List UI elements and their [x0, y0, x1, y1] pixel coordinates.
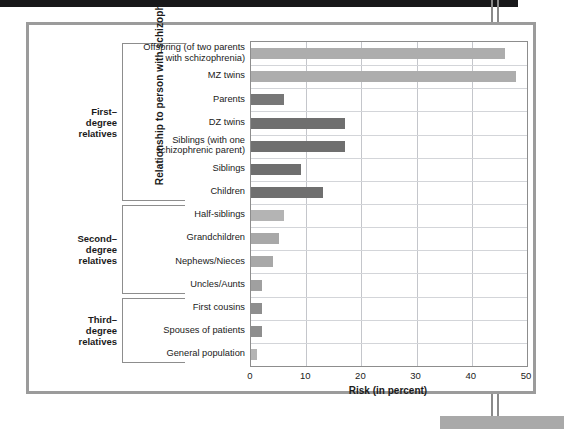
bar-offspring-of-two-parents: [251, 48, 505, 59]
gridline-row-13: [251, 343, 527, 344]
category-label-line: MZ twins: [65, 70, 245, 81]
bar-siblings-with-one: [251, 141, 345, 152]
category-label-dz-twins: DZ twins: [65, 117, 245, 128]
category-label-line: General population: [65, 348, 245, 359]
gridline-row-1: [251, 65, 527, 66]
page-bottom-band: [0, 416, 564, 429]
gridline-row-4: [251, 135, 527, 136]
category-label-siblings: Siblings: [65, 163, 245, 174]
category-label-line: Children: [65, 186, 245, 197]
group-label-line: relatives: [55, 336, 117, 347]
gridline-row-3: [251, 111, 527, 112]
category-label-grandchildren: Grandchildren: [65, 232, 245, 243]
category-label-line: Nephews/Nieces: [65, 256, 245, 267]
bar-nephews-nieces: [251, 256, 273, 267]
gridline-row-6: [251, 181, 527, 182]
category-label-spouses-of-patients: Spouses of patients: [65, 325, 245, 336]
category-label-line: Half-siblings: [65, 209, 245, 220]
bar-uncles-aunts: [251, 280, 262, 291]
category-label-half-siblings: Half-siblings: [65, 209, 245, 220]
category-label-line: Offspring (of two parents: [65, 42, 245, 53]
x-tick-10: 10: [293, 370, 317, 381]
x-tick-20: 20: [348, 370, 372, 381]
category-label-children: Children: [65, 186, 245, 197]
category-label-line: schizophrenic parent): [65, 145, 245, 156]
gridline-row-8: [251, 227, 527, 228]
x-tick-50: 50: [514, 370, 538, 381]
figure-frame: Relationship to person with schizophreni…: [26, 22, 536, 394]
gridline-row-7: [251, 204, 527, 205]
bar-parents: [251, 94, 284, 105]
bar-mz-twins: [251, 71, 516, 82]
category-label-line: Grandchildren: [65, 232, 245, 243]
gridline-row-10: [251, 273, 527, 274]
category-label-line: DZ twins: [65, 117, 245, 128]
bar-dz-twins: [251, 118, 345, 129]
category-label-line: Spouses of patients: [65, 325, 245, 336]
group-label-line: First–: [55, 106, 117, 117]
bar-first-cousins: [251, 303, 262, 314]
bar-half-siblings: [251, 210, 284, 221]
category-label-line: Siblings (with one: [65, 135, 245, 146]
bar-children: [251, 187, 323, 198]
page-top-black-bar: [0, 0, 518, 7]
bar-siblings: [251, 164, 301, 175]
x-tick-30: 30: [404, 370, 428, 381]
category-label-first-cousins: First cousins: [65, 302, 245, 313]
category-label-line: Siblings: [65, 163, 245, 174]
group-label-line: Third–: [55, 314, 117, 325]
gridline-row-5: [251, 158, 527, 159]
category-label-siblings-with-one: Siblings (with oneschizophrenic parent): [65, 135, 245, 156]
plot-area: [250, 41, 528, 367]
category-label-offspring-of-two-parents: Offspring (of two parentswith schizophre…: [65, 42, 245, 63]
category-label-line: Parents: [65, 94, 245, 105]
category-label-uncles-aunts: Uncles/Aunts: [65, 279, 245, 290]
x-axis-title: Risk (in percent): [250, 385, 526, 396]
category-label-general-population: General population: [65, 348, 245, 359]
group-label-line: degree: [55, 244, 117, 255]
category-label-line: First cousins: [65, 302, 245, 313]
category-label-mz-twins: MZ twins: [65, 70, 245, 81]
category-label-nephews-nieces: Nephews/Nieces: [65, 256, 245, 267]
gridline-row-11: [251, 297, 527, 298]
category-label-line: with schizophrenia): [65, 53, 245, 64]
x-tick-40: 40: [459, 370, 483, 381]
category-label-line: Uncles/Aunts: [65, 279, 245, 290]
gridline-row-2: [251, 88, 527, 89]
category-label-parents: Parents: [65, 94, 245, 105]
gridline-row-12: [251, 320, 527, 321]
bar-grandchildren: [251, 233, 279, 244]
gridline-row-9: [251, 250, 527, 251]
bar-spouses-of-patients: [251, 326, 262, 337]
page-bottom-band-segment: [440, 416, 564, 429]
x-tick-0: 0: [238, 370, 262, 381]
bar-general-population: [251, 349, 257, 360]
